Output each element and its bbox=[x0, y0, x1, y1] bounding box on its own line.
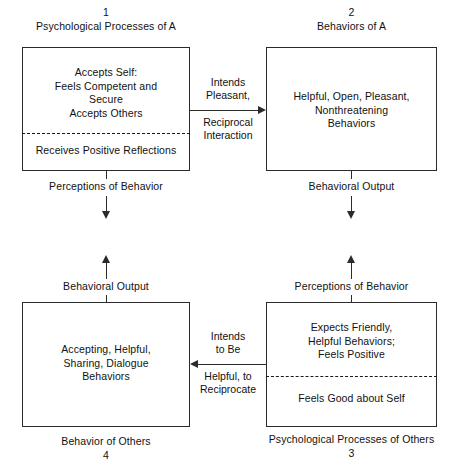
connector-line-right-down bbox=[351, 196, 352, 212]
quadrant-2-number: 2 bbox=[266, 6, 437, 18]
quadrant-4-caption-bottom: Behavior of Others bbox=[16, 435, 196, 448]
connector-bottom-above-label: Intends to Be bbox=[190, 330, 266, 357]
arrow-up-icon-left bbox=[102, 255, 110, 263]
quadrant-2-caption-top: Behaviors of A bbox=[266, 20, 437, 33]
box-3-divider bbox=[266, 376, 437, 377]
quadrant-1-number: 1 bbox=[22, 6, 190, 18]
box-1-lower-text: Receives Positive Reflections bbox=[23, 144, 189, 158]
arrow-up-icon-right bbox=[347, 255, 355, 263]
quadrant-4-number: 4 bbox=[22, 449, 190, 461]
box-behaviors-of-a: Helpful, Open, Pleasant, Nonthreatening … bbox=[266, 47, 437, 171]
box-4-upper-text: Accepting, Helpful, Sharing, Dialogue Be… bbox=[23, 343, 189, 384]
box-3-lower-text: Feels Good about Self bbox=[267, 392, 436, 406]
arrow-left-icon bbox=[190, 360, 198, 368]
box-behavior-of-others: Accepting, Helpful, Sharing, Dialogue Be… bbox=[22, 302, 190, 427]
connector-line-left-up bbox=[106, 263, 107, 279]
quadrant-3-number: 3 bbox=[266, 447, 437, 459]
connector-top-line bbox=[190, 110, 258, 111]
diagram-canvas: 1 Psychological Processes of A Accepts S… bbox=[0, 0, 457, 475]
box-psychological-processes-of-a: Accepts Self: Feels Competent and Secure… bbox=[22, 47, 190, 171]
box-1-upper-text: Accepts Self: Feels Competent and Secure… bbox=[23, 66, 189, 120]
connector-bottom-line bbox=[198, 364, 266, 365]
connector-line-right-up bbox=[351, 263, 352, 279]
quadrant-3-caption-top: Perceptions of Behavior bbox=[266, 280, 437, 293]
connector-stem-box2-bottom bbox=[351, 171, 352, 179]
connector-bottom-below-label: Helpful, to Reciprocate bbox=[190, 370, 266, 397]
box-2-upper-text: Helpful, Open, Pleasant, Nonthreatening … bbox=[267, 90, 436, 131]
quadrant-1-caption-top: Psychological Processes of A bbox=[2, 20, 210, 33]
connector-top-above-label: Intends Pleasant, bbox=[190, 76, 266, 103]
connector-top-below-label: Reciprocal Interaction bbox=[190, 116, 266, 143]
box-1-divider bbox=[22, 133, 190, 134]
arrow-right-icon bbox=[258, 106, 266, 114]
quadrant-1-caption-bottom: Perceptions of Behavior bbox=[16, 180, 196, 193]
connector-line-left-down bbox=[106, 196, 107, 212]
quadrant-4-caption-top: Behavioral Output bbox=[16, 280, 196, 293]
arrow-down-icon-left bbox=[102, 211, 110, 219]
box-psychological-processes-of-others: Expects Friendly, Helpful Behaviors; Fee… bbox=[266, 302, 437, 427]
connector-stem-box1-bottom bbox=[106, 171, 107, 179]
quadrant-2-caption-bottom: Behavioral Output bbox=[266, 180, 437, 193]
quadrant-3-caption-bottom: Psychological Processes of Others bbox=[256, 433, 447, 446]
arrow-down-icon-right bbox=[347, 211, 355, 219]
box-3-upper-text: Expects Friendly, Helpful Behaviors; Fee… bbox=[267, 321, 436, 362]
